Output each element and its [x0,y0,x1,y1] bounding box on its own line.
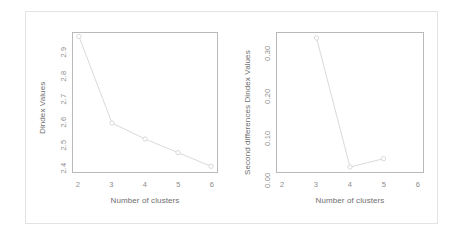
y-tick-label: 2.8 [59,70,68,81]
x-tick-label: 6 [416,180,420,189]
series-line [79,36,211,166]
data-point-marker [209,164,213,168]
y-axis-label-right: Second differences Dindex Values [243,50,252,175]
data-point-marker [348,165,352,169]
x-tick-label: 5 [382,180,386,189]
plot-area-right [276,32,424,173]
y-tick-label: 0.00 [263,172,272,187]
y-tick-label: 0.10 [263,130,272,145]
x-tick-label: 4 [143,180,147,189]
figure-frame: 2.92.82.72.62.52.4 23456 Number of clust… [25,11,438,224]
line-series-dindex [73,33,217,172]
x-tick-label: 4 [348,180,352,189]
y-tick-label: 2.4 [59,162,68,173]
screenshot-root: 2.92.82.72.62.52.4 23456 Number of clust… [0,0,463,236]
y-tick-label: 2.6 [59,116,68,127]
x-tick-label: 2 [280,180,284,189]
chart-panel-dindex: 2.92.82.72.62.52.4 23456 Number of clust… [26,12,233,225]
y-tick-label: 2.7 [59,93,68,104]
data-point-marker [77,34,81,38]
x-axis-label-right: Number of clusters [316,196,385,205]
y-tick-label: 0.20 [263,88,272,103]
y-tick-label: 2.9 [59,47,68,58]
data-point-marker [176,150,180,154]
plot-area-left [72,32,218,173]
x-axis-label-left: Number of clusters [111,196,180,205]
data-point-marker [314,36,318,40]
x-tick-label: 3 [314,180,318,189]
data-point-marker [110,121,114,125]
data-point-marker [381,157,385,161]
y-axis-label-left: Dindex Values [38,82,47,134]
series-line [317,38,384,167]
y-tick-label: 2.5 [59,139,68,150]
x-tick-label: 3 [109,180,113,189]
x-tick-label: 2 [76,180,80,189]
x-tick-label: 6 [210,180,214,189]
y-tick-label: 0.30 [263,46,272,61]
x-tick-label: 5 [176,180,180,189]
data-point-marker [143,137,147,141]
line-series-second-differences [277,33,423,172]
chart-panel-second-differences: 0.300.200.100.00 23456 Number of cluster… [233,12,439,225]
